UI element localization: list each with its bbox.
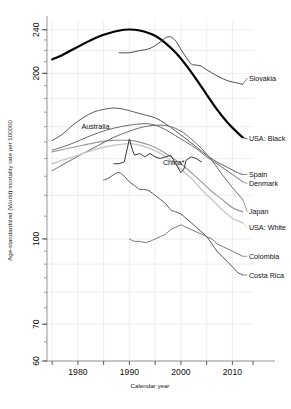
- y-axis-title: Age-standardized (World) mortality rate …: [6, 120, 13, 261]
- y-axis-tick-label: 70: [31, 319, 41, 329]
- series-label-colombia: Colombia: [249, 252, 279, 261]
- y-axis-tick-label: 200: [31, 66, 41, 81]
- series-label-australia: Australia: [81, 122, 109, 131]
- series-label-spain: Spain: [249, 170, 267, 179]
- x-axis-tick-label: 1990: [120, 367, 139, 377]
- series-label-usa-black: USA: Black: [249, 134, 286, 143]
- series-label-costa-rica: Costa Rica: [249, 271, 284, 280]
- y-axis-tick-label: 60: [31, 356, 41, 366]
- series-label-japan: Japan: [249, 207, 269, 216]
- x-axis-tick-label: 1980: [68, 367, 87, 377]
- series-label-denmark: Denmark: [249, 179, 279, 188]
- x-axis-tick-label: 2000: [171, 367, 190, 377]
- series-label-slovakia: Slovakia: [249, 74, 276, 83]
- y-axis-tick-label: 240: [31, 22, 41, 37]
- chart-figure: 2402001007060 1980199020002010 USA: Blac…: [0, 0, 291, 409]
- mortality-trend-line-chart: 2402001007060 1980199020002010 USA: Blac…: [0, 0, 291, 409]
- series-label-usa-white: USA: White: [249, 223, 286, 232]
- x-axis-title: Calendar year: [131, 382, 170, 389]
- y-axis-tick-label: 100: [31, 232, 41, 247]
- chart-background: [0, 0, 291, 409]
- series-label-china: China*: [163, 158, 185, 167]
- x-axis-tick-label: 2010: [223, 367, 242, 377]
